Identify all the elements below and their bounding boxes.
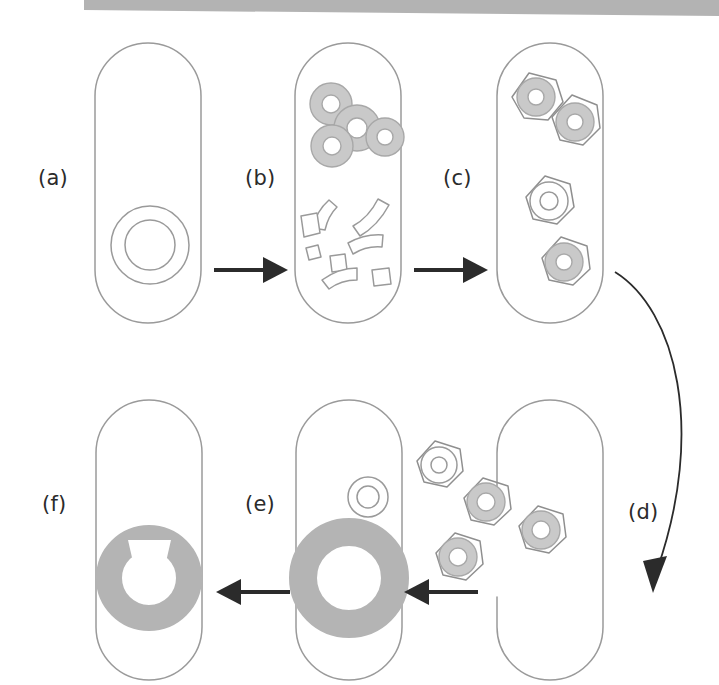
panel-label-a: (a) [38, 166, 68, 190]
virion-donut-b4 [366, 118, 404, 156]
panel-label-d: (d) [628, 500, 658, 524]
arrow-d-to-e [404, 579, 478, 605]
scan-artifact-bar [84, 0, 719, 16]
virion-donut-b3 [311, 125, 353, 167]
figure-root: (a) (b) (c) (d) (e) (f) [0, 0, 719, 685]
panel-d [417, 400, 603, 680]
lifecycle-diagram: (a) (b) (c) (d) (e) (f) [0, 0, 719, 685]
panel-label-b: (b) [245, 166, 275, 190]
virion-capsid-d4 [436, 533, 483, 580]
panel-b [295, 43, 404, 323]
panel-label-e: (e) [245, 492, 275, 516]
cell-wall-a [95, 43, 201, 323]
panel-c [497, 43, 603, 323]
panel-label-f: (f) [42, 492, 66, 516]
panel-label-c: (c) [443, 166, 472, 190]
panel-e [296, 400, 402, 680]
virion-capsid-d1 [417, 441, 463, 487]
arrow-c-to-d-curved [615, 272, 681, 593]
fragment-quad-3 [301, 213, 320, 237]
panel-f [96, 400, 202, 680]
arrow-e-to-f [216, 579, 290, 605]
arrow-a-to-b [214, 257, 288, 283]
arrow-b-to-c [414, 257, 488, 283]
ring-gap-notch-f [128, 540, 171, 562]
fragment-quad-7 [372, 268, 391, 286]
fragment-quad-8 [306, 245, 321, 260]
panel-a [95, 43, 201, 323]
